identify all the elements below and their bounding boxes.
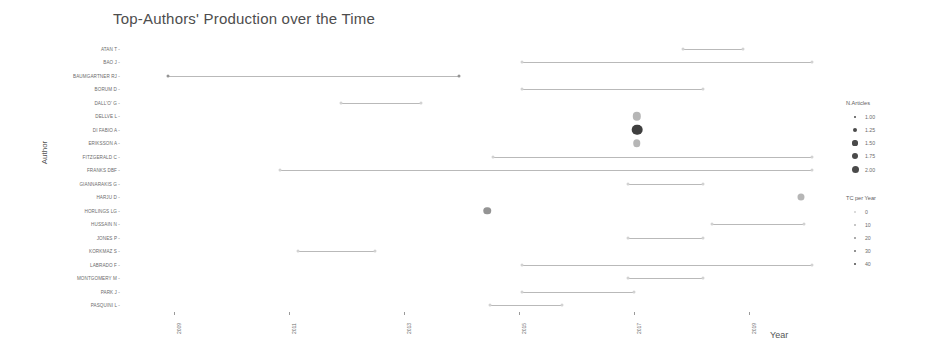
data-point[interactable]	[561, 304, 564, 307]
data-point[interactable]	[520, 290, 523, 293]
data-point[interactable]	[374, 250, 377, 253]
data-point[interactable]	[457, 74, 460, 77]
data-point[interactable]	[742, 47, 745, 50]
legend-swatch-icon	[852, 140, 857, 145]
data-point[interactable]	[702, 182, 705, 185]
legend-entry[interactable]: 40	[848, 261, 871, 267]
timeline-segment[interactable]	[298, 251, 376, 252]
legend-label: 30	[865, 248, 871, 254]
data-point[interactable]	[420, 101, 423, 104]
legend-entry[interactable]: 1.00	[848, 114, 875, 120]
data-point[interactable]	[702, 277, 705, 280]
legend-entry[interactable]: 10	[848, 222, 871, 228]
y-axis-tick-labrado-f: LABRADO F -	[0, 262, 120, 267]
data-point[interactable]	[702, 236, 705, 239]
legend-swatch-icon	[854, 211, 857, 214]
y-axis-tick-bao-j: BAO J -	[0, 60, 120, 65]
y-axis-tick-baumgartner-rj: BAUMGARTNER RJ -	[0, 73, 120, 78]
legend-entry[interactable]: 1.50	[848, 140, 875, 146]
page-title: Top-Authors' Production over the Time	[113, 10, 375, 27]
timeline-segment[interactable]	[490, 305, 562, 306]
y-axis-tick-borum-d: BORUM D -	[0, 87, 120, 92]
data-point[interactable]	[627, 236, 630, 239]
data-point[interactable]	[520, 61, 523, 64]
y-axis-tick-jones-p: JONES P -	[0, 235, 120, 240]
y-axis-tick-atan-t: ATAN T -	[0, 46, 120, 51]
data-point[interactable]	[702, 88, 705, 91]
legend-entry[interactable]: 1.25	[848, 127, 875, 133]
y-axis-tick-hussain-n: HUSSAIN N -	[0, 222, 120, 227]
x-axis-tickmark	[174, 312, 175, 315]
timeline-segment[interactable]	[522, 265, 812, 266]
data-point[interactable]	[627, 182, 630, 185]
data-point[interactable]	[484, 207, 492, 215]
legend-swatch-icon	[852, 166, 859, 173]
data-point[interactable]	[632, 124, 643, 135]
legend-entry[interactable]: 20	[848, 235, 871, 241]
timeline-segment[interactable]	[493, 157, 812, 158]
data-point[interactable]	[710, 223, 713, 226]
data-point[interactable]	[167, 74, 170, 77]
x-axis-tick-2017: 2017	[636, 323, 642, 334]
data-point[interactable]	[627, 277, 630, 280]
legend-entry[interactable]: 0	[848, 209, 868, 215]
legend-title-0: N.Articles	[846, 100, 870, 106]
legend-entry[interactable]: 2.00	[848, 166, 875, 173]
data-point[interactable]	[811, 61, 814, 64]
data-point[interactable]	[811, 169, 814, 172]
x-axis-tick-2015: 2015	[521, 323, 527, 334]
data-point[interactable]	[520, 88, 523, 91]
data-point[interactable]	[492, 155, 495, 158]
data-point[interactable]	[633, 112, 641, 120]
data-point[interactable]	[811, 263, 814, 266]
timeline-segment[interactable]	[628, 278, 703, 279]
timeline-segment[interactable]	[341, 103, 422, 104]
data-point[interactable]	[681, 47, 684, 50]
timeline-segment[interactable]	[683, 49, 743, 50]
x-axis-tick-2013: 2013	[406, 323, 412, 334]
data-point[interactable]	[296, 250, 299, 253]
data-point[interactable]	[633, 290, 636, 293]
timeline-segment[interactable]	[168, 76, 458, 77]
data-point[interactable]	[279, 169, 282, 172]
data-point[interactable]	[811, 155, 814, 158]
timeline-segment[interactable]	[628, 238, 703, 239]
y-axis-tick-horlings-lg: HORLINGS LG -	[0, 208, 120, 213]
legend-label: 2.00	[865, 167, 875, 173]
legend-entry[interactable]: 1.75	[848, 153, 875, 159]
data-point[interactable]	[489, 304, 492, 307]
x-axis-tickmark	[404, 312, 405, 315]
data-point[interactable]	[520, 263, 523, 266]
legend-label: 40	[865, 261, 871, 267]
x-axis-label: Year	[770, 330, 788, 340]
timeline-segment[interactable]	[280, 170, 812, 171]
y-axis-tick-fitzgerald-c: FITZGERALD C -	[0, 154, 120, 159]
data-point[interactable]	[797, 194, 804, 201]
timeline-segment[interactable]	[522, 62, 812, 63]
legend-label: 20	[865, 235, 871, 241]
data-point[interactable]	[802, 223, 805, 226]
legend-swatch-icon	[853, 128, 857, 132]
legend-container: N.Articles1.001.251.501.752.00TC per Yea…	[838, 100, 926, 260]
y-axis-tick-giannarakis-g: GIANNARAKIS G -	[0, 181, 120, 186]
legend-swatch-icon	[854, 116, 856, 118]
legend-swatch-icon	[854, 250, 857, 253]
timeline-segment[interactable]	[712, 224, 804, 225]
y-axis-tick-montgomery-m: MONTGOMERY M -	[0, 276, 120, 281]
legend-swatch-icon	[854, 263, 857, 266]
x-axis-tickmark	[749, 312, 750, 315]
data-point[interactable]	[339, 101, 342, 104]
x-axis-tick-2011: 2011	[291, 323, 297, 334]
y-axis-tick-dellve-l: DELLVE L -	[0, 114, 120, 119]
x-axis-tickmark	[519, 312, 520, 315]
legend-swatch-icon	[854, 237, 857, 240]
y-axis-tick-eriksson-a: ERIKSSON A -	[0, 141, 120, 146]
timeline-segment[interactable]	[522, 292, 634, 293]
data-point[interactable]	[633, 140, 641, 148]
timeline-segment[interactable]	[628, 184, 703, 185]
chart-root: Top-Authors' Production over the Time Au…	[0, 0, 926, 356]
legend-entry[interactable]: 30	[848, 248, 871, 254]
y-axis-tick-park-j: PARK J -	[0, 289, 120, 294]
timeline-segment[interactable]	[522, 89, 703, 90]
x-axis-tick-2019: 2019	[751, 323, 757, 334]
